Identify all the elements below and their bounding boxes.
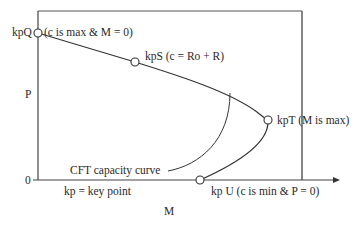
capacity-curve-lower (200, 122, 268, 180)
kpQ-note: (c is max & M = 0) (44, 27, 133, 39)
kpT-marker-icon (264, 116, 272, 124)
kpQ-marker-icon (34, 29, 42, 37)
curve-label: CFT capacity curve (70, 165, 160, 177)
legend-text: kp = key point (64, 186, 131, 198)
x-axis-label: M (164, 206, 174, 218)
capacity-curve-upper (38, 33, 268, 122)
curve-leader-line (168, 93, 230, 171)
kpS-marker-icon (131, 58, 139, 66)
x-axis-arrow-icon (333, 177, 340, 183)
kpT-label: kpT (M is max) (277, 115, 349, 127)
kpU-label: kp U (c is min & P = 0) (211, 186, 319, 198)
kpU-marker-icon (196, 176, 204, 184)
origin-label: 0 (25, 175, 31, 187)
kpQ-label: kpQ (12, 27, 32, 39)
y-axis-label: P (25, 89, 31, 101)
kpS-label: kpS (c = Ro + R) (145, 51, 224, 63)
